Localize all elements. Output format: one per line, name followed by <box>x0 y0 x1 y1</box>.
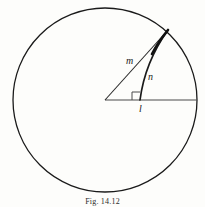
label-n: n <box>148 72 153 82</box>
right-angle-marker-icon <box>132 92 140 100</box>
label-l: l <box>139 104 142 114</box>
curved-arc-n <box>140 30 168 100</box>
figure-caption: Fig. 14.12 <box>0 197 205 206</box>
figure-container: m n l Fig. 14.12 <box>0 0 205 207</box>
arc-thick-top-segment <box>152 30 168 54</box>
geometry-diagram <box>0 0 205 207</box>
label-m: m <box>126 56 133 66</box>
